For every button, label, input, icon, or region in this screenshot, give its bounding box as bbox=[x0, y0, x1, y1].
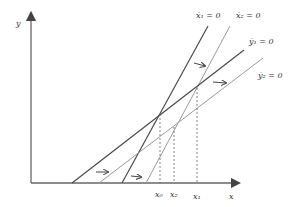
tick-x0: x₀ bbox=[155, 191, 163, 199]
shift-arrow-upper bbox=[194, 63, 205, 66]
x2-dot-label: ẋ₂ = 0 bbox=[236, 12, 261, 20]
x1-dot-label: ẋ₁ = 0 bbox=[196, 12, 221, 20]
shift-arrow-lower-right bbox=[131, 176, 141, 177]
y2-dot-nullcline bbox=[99, 58, 263, 183]
shift-arrow-mid bbox=[213, 82, 226, 83]
phase-diagram bbox=[0, 0, 296, 207]
y1-dot-nullcline bbox=[72, 50, 244, 183]
y1-dot-label: ẏ₁ = 0 bbox=[249, 38, 274, 46]
y2-dot-label: ẏ₂ = 0 bbox=[258, 72, 283, 80]
y-axis-label: y bbox=[16, 20, 21, 28]
x2-dot-nullcline bbox=[146, 26, 230, 183]
x1-dot-nullcline bbox=[122, 26, 208, 183]
tick-x1: x₁ bbox=[193, 193, 201, 201]
tick-x2: x₂ bbox=[170, 191, 178, 199]
x-axis-label: x bbox=[229, 193, 234, 201]
